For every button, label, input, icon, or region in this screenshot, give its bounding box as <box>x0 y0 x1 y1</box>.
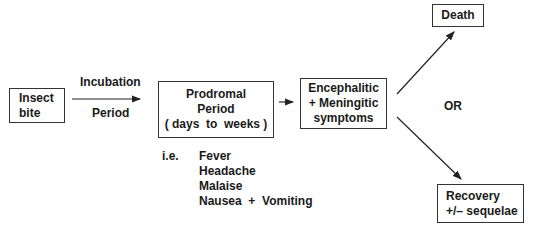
symptom-item: Nausea + Vomiting <box>199 194 312 209</box>
node-prodromal-period: Prodromal Period ( days to weeks ) <box>158 81 274 138</box>
symptoms-prefix: i.e. <box>162 149 179 163</box>
edge-label-incubation: Incubation <box>80 75 141 89</box>
or-label: OR <box>444 99 462 113</box>
node-insect-bite-line1: Insect <box>19 91 64 106</box>
node-insect-bite: Insect bite <box>9 88 65 123</box>
node-death: Death <box>432 4 484 27</box>
symptom-item: Headache <box>199 164 312 179</box>
node-recovery-line1: Recovery <box>446 189 523 204</box>
node-recovery-line2: +/– sequelae <box>446 204 523 219</box>
node-encephalitic-line2: + Meningitic <box>309 96 379 111</box>
symptom-item: Malaise <box>199 179 312 194</box>
node-encephalitic-symptoms: Encephalitic + Meningitic symptoms <box>300 78 387 129</box>
symptoms-list: Fever Headache Malaise Nausea + Vomiting <box>199 149 312 209</box>
node-prodromal-line2: Period <box>197 102 234 117</box>
node-encephalitic-line3: symptoms <box>313 111 373 126</box>
symptom-item: Fever <box>199 149 312 164</box>
edge-label-period: Period <box>92 106 129 120</box>
node-death-label: Death <box>441 8 474 23</box>
node-recovery: Recovery +/– sequelae <box>437 184 524 223</box>
node-insect-bite-line2: bite <box>19 106 64 121</box>
arrow-to-death <box>397 32 454 94</box>
node-prodromal-line3: ( days to weeks ) <box>165 117 268 132</box>
arrow-to-recovery <box>397 117 461 179</box>
node-prodromal-line1: Prodromal <box>186 87 246 102</box>
node-encephalitic-line1: Encephalitic <box>308 81 379 96</box>
